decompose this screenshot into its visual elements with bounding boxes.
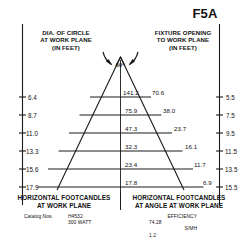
efficiency-row: EFFICIENCY74.28 <box>143 214 235 226</box>
fc-angle-value-4: 16.1 <box>185 143 209 150</box>
mounting-value-4: 11.5 <box>225 148 241 155</box>
mounting-value-5: 13.5 <box>225 166 241 173</box>
photometric-diagram: F5A DIA. OF CIRCLE AT WORK PLANE (IN FEE… <box>0 0 241 237</box>
footer-right-line-2: AT ANGLE AT WORK PLANE <box>121 202 237 210</box>
fc-angle-value-1: 70.6 <box>152 89 176 96</box>
footer-left-horizontal-fc: HORIZONTAL FOOTCANDLES AT WORK PLANE <box>8 194 120 210</box>
footer-left-line-1: HORIZONTAL FOOTCANDLES <box>8 194 120 202</box>
diameter-value-2: 8.7 <box>28 112 50 119</box>
mounting-value-3: 9.5 <box>226 130 241 137</box>
fc-horizontal-value-4: 32.3 <box>125 143 149 150</box>
header-right-line-1: FIXTURE OPENING <box>133 29 233 36</box>
fc-horizontal-value-5: 23.4 <box>125 161 149 168</box>
catalog-label: Catalog Nos. <box>24 214 68 220</box>
footer-right-line-1: HORIZONTAL FOOTCANDLES <box>121 194 237 202</box>
diameter-value-1: 6.4 <box>28 94 50 101</box>
fc-horizontal-value-3: 47.3 <box>125 125 149 132</box>
cone-left-edge <box>57 57 121 190</box>
fc-angle-value-5: 11.7 <box>194 161 218 168</box>
header-left-line-2: AT WORK PLANE <box>18 36 114 43</box>
catalog-code-label: F5A <box>176 6 234 21</box>
diameter-value-3: 11.0 <box>26 130 48 137</box>
header-right-line-3: (IN FEET) <box>133 44 233 51</box>
diameter-value-4: 13.3 <box>26 148 48 155</box>
catalog-info: Catalog Nos.H4532 300 WATT <box>24 214 132 226</box>
smh-row: S/MH1.2 <box>143 226 235 237</box>
mounting-value-1: 5.5 <box>226 94 241 101</box>
fc-angle-value-6: 6.9 <box>203 179 227 186</box>
fc-angle-value-2: 38.0 <box>163 107 187 114</box>
cone-right-edge <box>121 57 185 190</box>
beam-angle-label: 60° <box>108 62 132 68</box>
footer-right-angle-fc: HORIZONTAL FOOTCANDLES AT ANGLE AT WORK … <box>121 194 237 210</box>
mounting-value-6: 15.5 <box>225 184 241 191</box>
footer-divider <box>120 192 121 210</box>
fc-horizontal-value-2: 75.9 <box>125 107 149 114</box>
fc-horizontal-value-6: 17.8 <box>125 179 149 186</box>
fc-angle-value-3: 23.7 <box>174 125 198 132</box>
catalog-wattage: 300 WATT <box>68 220 132 226</box>
header-right-line-2: TO WORK PLANE <box>133 36 233 43</box>
header-left-line-1: DIA. OF CIRCLE <box>18 29 114 36</box>
mounting-value-2: 7.5 <box>226 112 241 119</box>
footer-left-line-2: AT WORK PLANE <box>8 202 120 210</box>
header-left-line-3: (IN FEET) <box>18 44 114 51</box>
diameter-value-6: 17.9 <box>26 184 48 191</box>
smh-value: 1.2 <box>143 233 183 237</box>
header-right-fixture-opening: FIXTURE OPENING TO WORK PLANE (IN FEET) <box>133 29 233 51</box>
performance-info: EFFICIENCY74.28 S/MH1.2 <box>143 214 235 237</box>
fc-horizontal-value-1: 141.2 <box>123 89 147 96</box>
header-left-diameter: DIA. OF CIRCLE AT WORK PLANE (IN FEET) <box>18 29 114 51</box>
diameter-value-5: 15.6 <box>26 166 48 173</box>
